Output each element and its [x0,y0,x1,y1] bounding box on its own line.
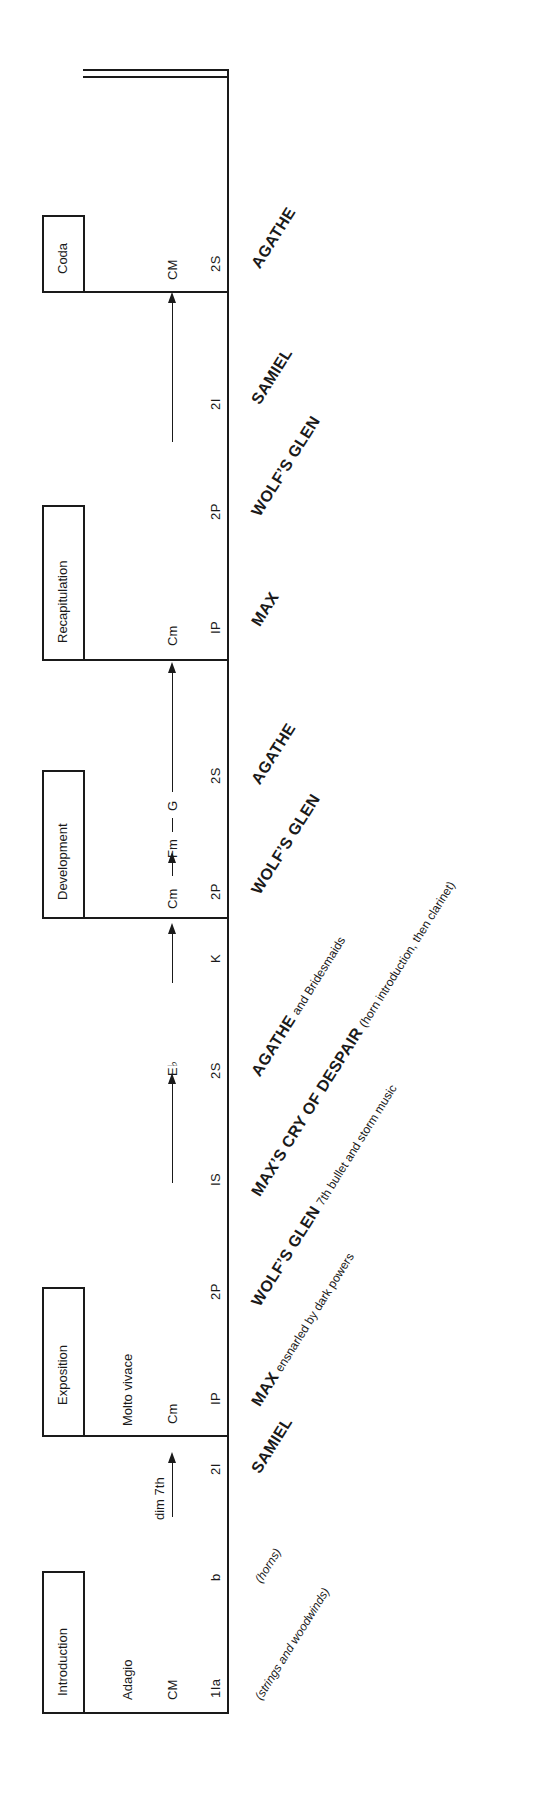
code-IP-expo: IP [208,1392,223,1405]
label-samiel-1: SAMIEL [248,1414,296,1476]
section-divider-coda [84,291,229,293]
code-2I-recap: 2I [208,398,223,410]
key-expo-target: E♭ [165,1061,180,1076]
label-agathe-3: AGATHE [248,204,299,271]
label-samiel-2: SAMIEL [248,345,296,407]
code-2S-expo: 2S [208,1062,223,1079]
label-agathe-1-name: AGATHE [248,1012,299,1079]
arrow-recap-to-coda [172,302,173,442]
arrow-dev-a-b [172,862,173,876]
label-agathe-1-note: and Bridesmaids [289,934,348,1017]
arrow-intro-to-expo [172,1462,173,1517]
label-max-cry-note: (horn introduction, then clarinet) [356,879,458,1030]
section-label-development: Development [55,823,70,900]
section-label-exposition: Exposition [55,1345,70,1405]
label-wolfs-glen-1: WOLF’S GLEN 7th bullet and storm music [248,1080,400,1309]
key-coda: CM [165,260,180,280]
key-expo: Cm [165,1404,180,1424]
label-wolfs-glen-3: WOLF’S GLEN [248,413,324,520]
dim-7th-label: dim 7th [152,1477,167,1520]
section-label-coda: Coda [55,243,70,274]
label-strings-woodwinds: (strings and woodwinds) [252,1585,332,1702]
label-agathe-2: AGATHE [248,720,299,787]
final-double-bar-outer [83,69,229,71]
key-dev-c: G [165,801,180,811]
arrow-expo-to-eb [172,1083,173,1183]
arrow-dev-to-recap [172,672,173,792]
code-K: K [208,954,223,963]
label-max-1-name: MAX [248,1369,282,1409]
label-max-2: MAX [248,589,283,629]
section-divider-recapitulation [84,659,229,661]
section-divider-exposition [84,1435,229,1437]
key-dev-b: Fm [165,839,180,858]
label-wolfs-glen-1-note: 7th bullet and storm music [314,1082,400,1208]
code-2P-expo: 2P [208,1283,223,1300]
label-horns: (horns) [252,1546,284,1586]
section-divider-introduction [84,1712,229,1714]
key-intro: CM [165,1680,180,1700]
code-2S-coda: 2S [208,255,223,272]
label-wolfs-glen-2: WOLF’S GLEN [248,791,324,898]
dash-dev-b-c [172,818,173,832]
section-label-introduction: Introduction [55,1628,70,1696]
code-IS: IS [208,1173,223,1186]
section-label-recapitulation: Recapitulation [55,561,70,643]
code-2S-dev: 2S [208,767,223,784]
code-2P-recap: 2P [208,503,223,520]
code-b: b [208,1573,223,1581]
code-2P-dev: 2P [208,883,223,900]
arrow-to-development [172,933,173,983]
label-wolfs-glen-1-name: WOLF’S GLEN [248,1203,323,1309]
code-1Ia: 1Ia [208,1678,223,1698]
final-double-bar-inner [83,76,229,78]
code-2I: 2I [208,1463,223,1475]
main-timeline [227,70,229,1714]
tempo-molto-vivace: Molto vivace [120,1354,135,1426]
section-divider-development [84,917,229,919]
key-recap: Cm [165,626,180,646]
tempo-adagio: Adagio [120,1660,135,1700]
key-dev-a: Cm [165,889,180,909]
code-IP-recap: IP [208,621,223,634]
